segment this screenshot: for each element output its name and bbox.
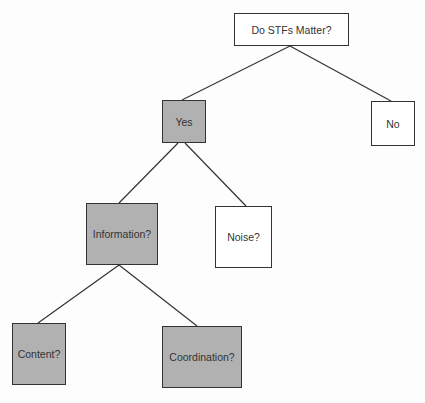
edge-root-yes [182, 46, 290, 100]
node-information: Information? [86, 203, 158, 265]
node-no: No [371, 101, 415, 146]
node-noise-label: Noise? [227, 231, 260, 243]
node-content: Content? [12, 323, 66, 385]
node-noise: Noise? [215, 206, 272, 268]
node-yes-label: Yes [175, 116, 192, 128]
edge-information-coordination [119, 265, 197, 326]
edge-yes-noise [185, 143, 246, 206]
node-coordination-label: Coordination? [169, 351, 234, 363]
node-content-label: Content? [18, 348, 61, 360]
node-coordination: Coordination? [162, 326, 242, 388]
node-no-label: No [386, 118, 399, 130]
node-yes: Yes [162, 100, 206, 143]
edge-yes-information [119, 143, 178, 203]
decision-tree-diagram: Do STFs Matter? Yes No Information? Nois… [0, 0, 425, 403]
edge-information-content [38, 265, 119, 323]
node-information-label: Information? [93, 228, 151, 240]
node-root-label: Do STFs Matter? [252, 24, 332, 36]
edge-root-no [290, 46, 391, 101]
node-root: Do STFs Matter? [234, 13, 349, 46]
